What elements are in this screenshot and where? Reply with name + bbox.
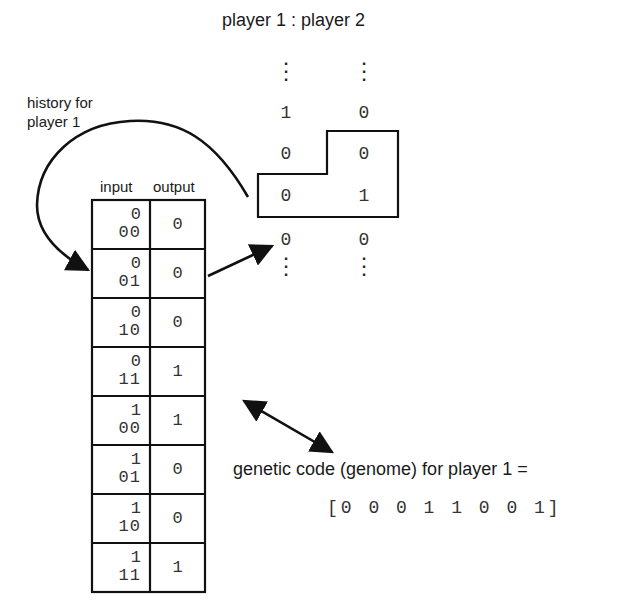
input-history-bits: 00 <box>119 223 141 242</box>
history-p1-move: 1 <box>276 103 296 123</box>
history-label-line2: player 1 <box>27 112 93 131</box>
output-cell: 1 <box>150 347 205 396</box>
output-cell: 0 <box>150 445 205 494</box>
history-p2-next-move: 0 <box>354 230 374 250</box>
history-p1-move: 0 <box>276 144 296 164</box>
input-prev-move: 0 <box>131 303 141 322</box>
input-cell: 0 01 <box>93 249 149 298</box>
history-label-line1: history for <box>27 93 93 112</box>
history-p2-move: 0 <box>354 103 374 123</box>
input-cell: 1 10 <box>93 494 149 543</box>
diagram-title: player 1 : player 2 <box>222 10 365 31</box>
history-p1-move: 0 <box>276 186 296 206</box>
input-prev-move: 1 <box>131 401 141 420</box>
input-cell: 0 00 <box>93 200 149 249</box>
table-header-output: output <box>153 178 195 195</box>
table-header-input: input <box>100 178 133 195</box>
input-prev-move: 0 <box>131 254 141 273</box>
input-prev-move: 1 <box>131 499 141 518</box>
history-label: history for player 1 <box>27 93 93 131</box>
input-history-bits: 01 <box>119 272 141 291</box>
input-prev-move: 1 <box>131 450 141 469</box>
input-prev-move: 0 <box>131 205 141 224</box>
input-history-bits: 10 <box>119 321 141 340</box>
input-history-bits: 11 <box>119 566 141 585</box>
input-cell: 0 10 <box>93 298 149 347</box>
output-cell: 0 <box>150 200 205 249</box>
output-cell: 1 <box>150 543 205 592</box>
output-cell: 0 <box>150 298 205 347</box>
output-cell: 0 <box>150 494 205 543</box>
input-cell: 1 01 <box>93 445 149 494</box>
input-prev-move: 1 <box>131 548 141 567</box>
ellipsis-top-player1: ··· <box>276 60 296 84</box>
input-history-bits: 11 <box>119 370 141 389</box>
output-cell: 1 <box>150 396 205 445</box>
input-history-bits: 00 <box>119 419 141 438</box>
ellipsis-bottom-player2: ··· <box>354 255 374 279</box>
input-cell: 1 11 <box>93 543 149 592</box>
input-history-bits: 01 <box>119 468 141 487</box>
output-cell: 0 <box>150 249 205 298</box>
history-p1-next-move: 0 <box>276 230 296 250</box>
input-cell: 0 11 <box>93 347 149 396</box>
ellipsis-top-player2: ··· <box>354 60 374 84</box>
genome-label: genetic code (genome) for player 1 = <box>233 459 528 480</box>
input-prev-move: 0 <box>131 352 141 371</box>
history-p2-move: 1 <box>354 186 374 206</box>
input-history-bits: 10 <box>119 517 141 536</box>
double-arrow <box>244 401 332 452</box>
ellipsis-bottom-player1: ··· <box>276 255 296 279</box>
genome-code: [0 0 0 1 1 0 0 1] <box>327 498 562 518</box>
output-arrow <box>208 246 272 276</box>
history-p2-move: 0 <box>354 144 374 164</box>
input-cell: 1 00 <box>93 396 149 445</box>
